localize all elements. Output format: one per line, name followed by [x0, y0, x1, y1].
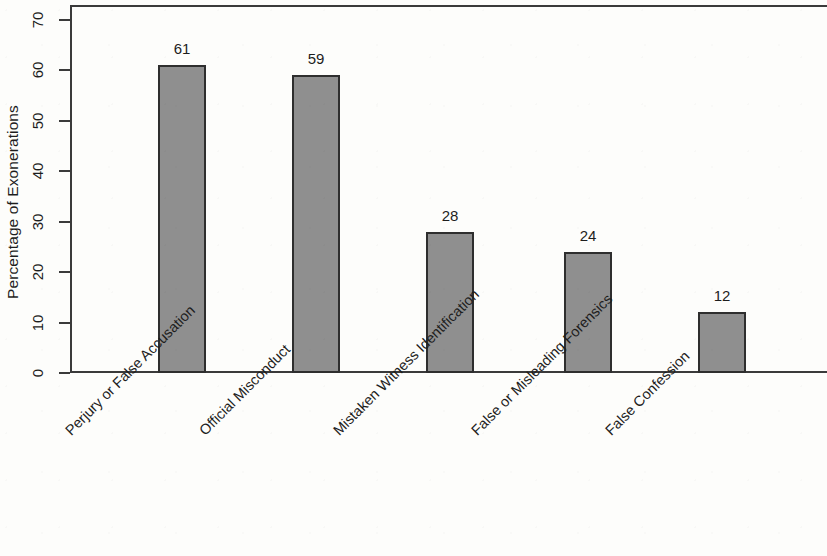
- y-axis-tick-mark: [59, 221, 70, 223]
- y-axis-tick-mark: [59, 120, 70, 122]
- y-axis-tick-mark: [59, 271, 70, 273]
- y-axis-tick-label: 0: [25, 359, 51, 387]
- y-axis-tick-mark: [59, 372, 70, 374]
- bar: [698, 312, 746, 373]
- bar-value-label: 28: [406, 207, 494, 225]
- y-axis-tick-label: 70: [25, 6, 51, 34]
- y-axis-tick-label: 60: [25, 56, 51, 84]
- y-axis-tick-label: 10: [25, 309, 51, 337]
- y-axis-title: Percentage of Exonerations: [0, 18, 26, 386]
- y-axis-tick-mark: [59, 322, 70, 324]
- y-axis-tick-label: 20: [25, 258, 51, 286]
- y-axis-tick-label: 50: [25, 107, 51, 135]
- y-axis-tick-mark: [59, 19, 70, 21]
- y-axis-tick-label: 40: [25, 157, 51, 185]
- bar-value-label: 12: [678, 287, 766, 305]
- chart-page: Percentage of Exonerations 0102030405060…: [0, 0, 827, 556]
- y-axis-tick-mark: [59, 170, 70, 172]
- y-axis-tick-mark: [59, 69, 70, 71]
- bar-value-label: 61: [138, 40, 226, 58]
- y-axis-tick-label: 30: [25, 208, 51, 236]
- bar: [292, 75, 340, 373]
- bar-value-label: 24: [544, 227, 632, 245]
- bar-value-label: 59: [272, 50, 360, 68]
